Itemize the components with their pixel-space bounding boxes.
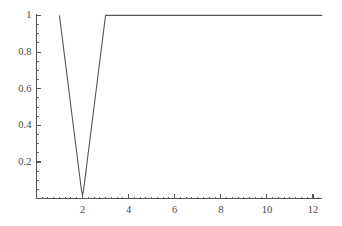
- x-tick-label: 6: [172, 205, 177, 216]
- x-axis-ticks: [36, 194, 318, 199]
- y-axis-ticks: [36, 15, 41, 198]
- data-series-line: [59, 15, 322, 195]
- x-tick-label: 8: [218, 205, 223, 216]
- x-tick-label: 10: [262, 205, 273, 216]
- plot-area: [0, 0, 342, 226]
- x-tick-label: 12: [308, 205, 319, 216]
- chart-figure: 24681012 0.20.40.60.81: [0, 0, 342, 226]
- y-tick-label: 0.4: [18, 120, 31, 131]
- y-tick-label: 1: [26, 10, 31, 21]
- x-tick-label: 2: [80, 205, 85, 216]
- y-tick-label: 0.8: [18, 47, 31, 58]
- x-tick-label: 4: [126, 205, 131, 216]
- y-tick-label: 0.6: [18, 83, 31, 94]
- y-tick-label: 0.2: [18, 157, 31, 168]
